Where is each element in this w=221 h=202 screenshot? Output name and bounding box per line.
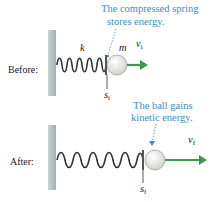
position-sf: sf [140,183,147,196]
after-label: After: [10,156,34,167]
after-annotation-line2: kinetic energy. [131,112,193,123]
after-annotation-line1: The ball gains [133,100,192,111]
after-panel: The ball gains kinetic energy. After: vf… [10,100,207,196]
velocity-vi: vi [136,38,143,51]
pointer-arrowhead [149,141,155,146]
wall [48,30,56,96]
spring-constant-k: k [80,42,85,53]
velocity-arrow-head [140,60,148,70]
spring-end-plate [142,150,144,170]
wall [48,125,56,190]
pointer-dot [107,55,109,57]
before-annotation-line2: stores energy. [107,16,164,27]
before-annotation-line1: The compressed spring [101,3,199,14]
velocity-vf: vf [188,134,196,147]
before-label: Before: [8,64,38,75]
mass-m: m [119,42,127,53]
before-panel: The compressed spring stores energy. Bef… [8,3,199,102]
relaxed-spring [57,153,143,168]
velocity-arrow-head [199,155,207,165]
annotation-pointer [108,29,116,55]
compressed-spring [57,58,106,72]
position-si: si [104,89,110,102]
ball [107,55,127,75]
annotation-pointer [152,124,156,143]
spring-ball-diagram: The compressed spring stores energy. Bef… [0,0,221,202]
spring-end-plate [105,55,107,75]
ball [145,150,165,170]
